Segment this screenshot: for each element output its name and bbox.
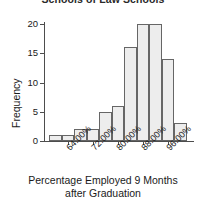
y-axis-title: Frequency [10, 78, 22, 128]
chart-title-clipped: Schools of Law Schools [0, 0, 206, 7]
y-tick-label: 0 [33, 136, 38, 146]
y-tick-mark [40, 141, 44, 142]
histogram-figure: Schools of Law Schools 05101520 Frequenc… [0, 0, 206, 201]
x-axis-title-line2: after Graduation [0, 187, 206, 200]
y-tick-mark [40, 83, 44, 84]
x-axis-title: Percentage Employed 9 Months after Gradu… [0, 174, 206, 199]
y-tick-label: 15 [27, 49, 38, 59]
y-tick-label: 20 [27, 19, 38, 29]
plot-area: 05101520 [44, 24, 191, 141]
y-tick-label: 5 [33, 107, 38, 117]
histogram-bar [137, 24, 150, 141]
chart-title: Schools of Law Schools [0, 0, 206, 5]
y-tick-mark [40, 112, 44, 113]
y-tick-label: 10 [27, 78, 38, 88]
x-axis-title-line1: Percentage Employed 9 Months [28, 174, 177, 186]
y-tick-mark [40, 24, 44, 25]
histogram-bar [49, 135, 62, 141]
y-tick-mark [40, 53, 44, 54]
